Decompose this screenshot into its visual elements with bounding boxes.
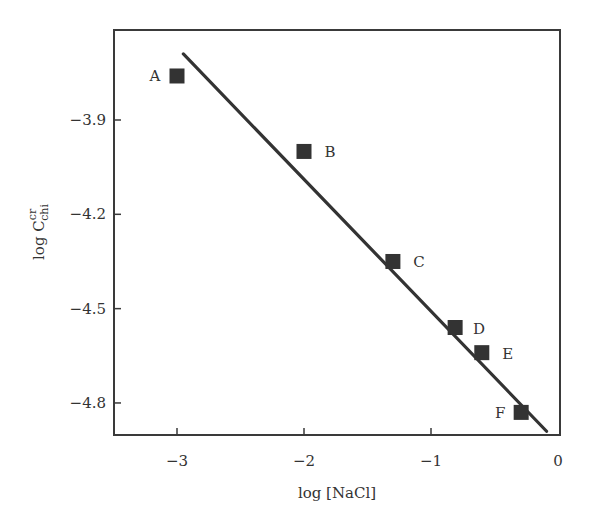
y-tick-label: −3.9 [70, 111, 106, 129]
y-axis-title-base: log C [30, 220, 48, 260]
y-tick-label: −4.2 [70, 205, 106, 223]
x-tick-label: −3 [166, 452, 188, 470]
point-label-f: F [495, 404, 505, 422]
point-label-c: C [413, 253, 424, 271]
data-point-c [385, 254, 400, 269]
y-axis-title-sub: chi [38, 204, 51, 221]
data-point-a [170, 68, 185, 83]
data-points: ABCDEF [149, 67, 529, 422]
data-point-e [474, 345, 489, 360]
x-tick-label: −1 [420, 452, 442, 470]
y-tick-label: −4.8 [70, 394, 106, 412]
y-tick-label: −4.5 [70, 300, 106, 318]
x-axis-title: log [NaCl] [298, 484, 376, 502]
data-point-f [514, 405, 529, 420]
point-label-a: A [149, 67, 161, 85]
scatter-chart: −3−2−10 −3.9−4.2−4.5−4.8 ABCDEF log [NaC… [0, 0, 590, 525]
svg-text:log Ccrchi: log Ccrchi [26, 204, 51, 260]
point-label-e: E [502, 345, 513, 363]
x-tick-label: 0 [553, 452, 563, 470]
x-tick-label: −2 [293, 452, 315, 470]
fit-line [183, 54, 546, 431]
data-point-b [297, 144, 312, 159]
y-axis-title: log Ccrchi [26, 204, 51, 260]
data-point-d [448, 320, 463, 335]
point-label-d: D [473, 320, 485, 338]
regression-line [183, 54, 546, 431]
point-label-b: B [324, 143, 335, 161]
